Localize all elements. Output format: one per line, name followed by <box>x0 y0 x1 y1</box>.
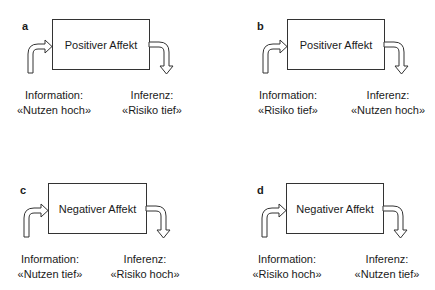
inference-label: Inferenz: «Risiko hoch» <box>105 252 185 282</box>
output-arrow-icon <box>146 204 174 240</box>
information-label: Information: «Nutzen tief» <box>10 252 90 282</box>
panel-a: a Positiver Affekt Information: «Nutzen … <box>0 0 217 145</box>
affect-label: Negativer Affekt <box>59 203 136 215</box>
input-arrow-icon <box>261 38 289 74</box>
output-arrow-icon <box>149 40 177 76</box>
panel-letter: b <box>257 20 264 32</box>
affect-box: Positiver Affekt <box>52 19 150 70</box>
inference-label: Inferenz: «Nutzen hoch» <box>345 88 431 118</box>
panel-d: d Negativer Affekt Information: «Risiko … <box>215 145 432 290</box>
panel-letter: a <box>22 20 28 32</box>
affect-label: Positiver Affekt <box>300 39 373 51</box>
affect-box: Positiver Affekt <box>287 19 385 70</box>
information-label: Information: «Risiko tief» <box>248 88 328 118</box>
input-arrow-icon <box>26 38 54 74</box>
panel-b: b Positiver Affekt Information: «Risiko … <box>215 0 432 145</box>
information-label: Information: «Nutzen hoch» <box>14 88 94 118</box>
input-arrow-icon <box>260 202 288 238</box>
output-arrow-icon <box>383 204 411 240</box>
affect-box: Negativer Affekt <box>48 183 147 234</box>
affect-box: Negativer Affekt <box>286 183 384 234</box>
inference-label: Inferenz: «Risiko tief» <box>112 88 192 118</box>
information-label: Information: «Risiko hoch» <box>247 252 327 282</box>
inference-label: Inferenz: «Nutzen tief» <box>344 252 430 282</box>
input-arrow-icon <box>22 202 50 238</box>
panel-c: c Negativer Affekt Information: «Nutzen … <box>0 145 217 290</box>
affect-label: Negativer Affekt <box>296 203 373 215</box>
panel-letter: d <box>257 184 264 196</box>
output-arrow-icon <box>384 40 412 76</box>
affect-label: Positiver Affekt <box>65 39 138 51</box>
panel-letter: c <box>20 184 26 196</box>
